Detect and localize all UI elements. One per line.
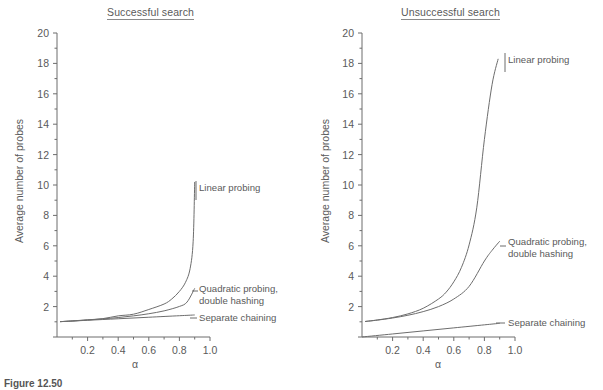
y-tick-label: 2	[43, 301, 49, 313]
chart-panel-unsuccessful-search: Unsuccessful search Average number of pr…	[300, 0, 601, 390]
y-tick-label: 10	[342, 179, 354, 191]
curve-linear-probing-left	[60, 182, 195, 322]
plot-area-successful: 24681012141618200.20.40.60.81.0	[0, 0, 301, 390]
y-tick-label: 16	[37, 88, 49, 100]
y-tick-label: 14	[37, 118, 49, 130]
y-tick-label: 12	[342, 149, 354, 161]
curve-label-quadratic-right-line1: Quadratic probing,	[508, 236, 587, 247]
x-tick-label: 0.4	[416, 344, 431, 356]
y-tick-label: 16	[342, 88, 354, 100]
y-tick-label: 14	[342, 118, 354, 130]
y-tick-label: 4	[43, 270, 49, 282]
x-tick-label: 0.8	[477, 344, 492, 356]
y-tick-label: 20	[37, 27, 49, 39]
x-tick-label: 1.0	[508, 344, 523, 356]
figure-caption: Figure 12.50	[4, 378, 62, 389]
curve-label-quadratic-right-line2: double hashing	[508, 248, 573, 259]
curve-label-quadratic-left: Quadratic probing, double hashing	[199, 283, 278, 306]
x-axis-label-right: α	[300, 358, 576, 370]
curve-separate-chaining-right	[362, 323, 500, 337]
x-tick-label: 0.2	[385, 344, 400, 356]
y-tick-label: 4	[348, 270, 354, 282]
figure-hash-table-probes: Successful search Average number of prob…	[0, 0, 603, 390]
x-tick-label: 0.2	[80, 344, 95, 356]
curve-label-linear-probing-right: Linear probing	[508, 54, 569, 66]
x-tick-label: 0.4	[111, 344, 126, 356]
curve-label-quadratic-left-line1: Quadratic probing,	[199, 283, 278, 294]
y-tick-label: 6	[348, 240, 354, 252]
y-tick-label: 8	[43, 209, 49, 221]
curve-quadratic-probing-left	[60, 288, 195, 321]
x-tick-label: 0.6	[141, 344, 156, 356]
y-tick-label: 10	[37, 179, 49, 191]
chart-panel-successful-search: Successful search Average number of prob…	[0, 0, 301, 390]
curve-label-separate-chaining-right: Separate chaining	[508, 317, 585, 329]
y-tick-label: 18	[342, 57, 354, 69]
y-tick-label: 2	[348, 301, 354, 313]
curve-linear-probing-right	[365, 59, 498, 322]
y-tick-label: 20	[342, 27, 354, 39]
x-axis-label-left: α	[0, 358, 270, 370]
x-tick-label: 1.0	[203, 344, 218, 356]
x-tick-label: 0.6	[446, 344, 461, 356]
curve-label-quadratic-left-line2: double hashing	[199, 295, 264, 306]
curve-separate-chaining-left	[60, 315, 195, 322]
curve-quadratic-probing-right	[365, 241, 500, 321]
curve-label-separate-chaining-left: Separate chaining	[199, 312, 276, 324]
y-tick-label: 8	[348, 209, 354, 221]
y-tick-label: 12	[37, 149, 49, 161]
y-tick-label: 6	[43, 240, 49, 252]
x-tick-label: 0.8	[172, 344, 187, 356]
curve-label-linear-probing-left: Linear probing	[199, 182, 260, 194]
curve-label-quadratic-right: Quadratic probing, double hashing	[508, 236, 587, 259]
y-tick-label: 18	[37, 57, 49, 69]
